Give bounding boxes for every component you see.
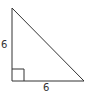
- triangle-figure: [0, 0, 87, 93]
- left-leg-label: 6: [1, 40, 7, 50]
- right-angle-marker: [12, 69, 24, 81]
- right-triangle: [12, 8, 84, 81]
- bottom-leg-label: 6: [43, 83, 49, 93]
